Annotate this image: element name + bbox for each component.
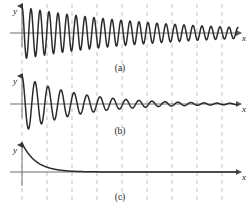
x-axis-label-b: x bbox=[241, 104, 246, 114]
panel-caption-a: (a) bbox=[115, 63, 126, 74]
figure-canvas: y y y x x x (a) (b) (c) bbox=[0, 0, 251, 208]
y-axis-label-c: y bbox=[12, 145, 17, 155]
y-axis-label-a: y bbox=[12, 6, 17, 16]
y-axis-label-b: y bbox=[12, 76, 17, 86]
panel-caption-b: (b) bbox=[114, 126, 125, 137]
damped-oscillation-figure: y y y x x x (a) (b) (c) bbox=[0, 0, 251, 208]
x-axis-label-c: x bbox=[241, 172, 246, 182]
panel-caption-c: (c) bbox=[115, 192, 126, 203]
x-axis-label-a: x bbox=[241, 33, 246, 43]
